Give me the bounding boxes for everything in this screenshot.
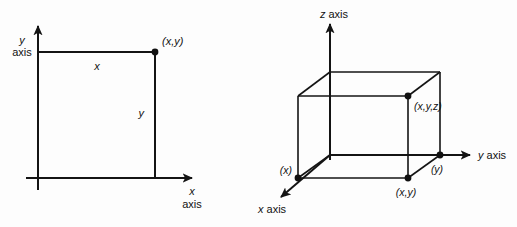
vertical-edge-label-2d: y <box>138 107 146 119</box>
x-intercept-label-3d: (x) <box>280 164 292 176</box>
y-axis-label-3d: y axis <box>477 149 507 161</box>
x-intercept-point-marker-3d <box>295 175 302 182</box>
xy-point-marker-2d <box>152 49 159 56</box>
z-axis-label-3d: z axis <box>319 8 349 20</box>
y-intercept-label-3d: (y) <box>431 163 443 175</box>
xy-point-label-3d: (x,y) <box>396 186 416 198</box>
x-axis-label-3d: x axis <box>257 203 287 215</box>
diagram-canvas: y axis x axis x y (x,y) <box>0 0 517 227</box>
xy-point-label-2d: (x,y) <box>162 35 184 47</box>
plot-2d-group: y axis x axis x y (x,y) <box>12 26 202 210</box>
y-axis-label-line2-2d: axis <box>12 46 32 58</box>
box-edge-depth-bottom-left <box>298 155 330 178</box>
y-axis-label-line1-2d: y <box>18 34 26 46</box>
xyz-point-marker-3d <box>405 93 412 100</box>
plot-3d-group: z axis y axis x axis (x) (y) (x,y) (x,y,… <box>257 8 507 215</box>
horizontal-edge-label-2d: x <box>93 60 100 72</box>
xy-point-marker-3d <box>405 175 412 182</box>
x-axis-line-3d <box>281 155 330 197</box>
box-edge-depth-top-right <box>408 72 440 96</box>
x-axis-label-line2-2d: axis <box>182 198 202 210</box>
y-intercept-point-marker-3d <box>437 152 444 159</box>
box-edge-depth-top-left <box>298 72 330 96</box>
x-axis-label-line1-2d: x <box>188 185 195 197</box>
xyz-point-label-3d: (x,y,z) <box>414 100 442 112</box>
coordinate-systems-figure: y axis x axis x y (x,y) <box>0 0 517 227</box>
